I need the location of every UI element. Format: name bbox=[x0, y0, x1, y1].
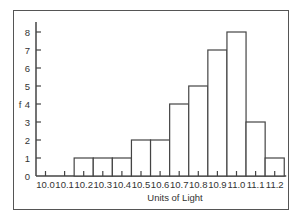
histogram-chart: 012345678f10.010.110.210.310.410.510.610… bbox=[0, 0, 302, 219]
y-tick-label: 0 bbox=[25, 171, 30, 182]
x-axis-label: Units of Light bbox=[147, 192, 203, 203]
x-tick-label: 10.0 bbox=[36, 179, 55, 190]
y-tick-label: 5 bbox=[25, 81, 30, 92]
y-tick-label: 2 bbox=[25, 135, 30, 146]
y-tick-label: 4 bbox=[25, 99, 30, 110]
x-tick-label: 10.5 bbox=[132, 179, 151, 190]
y-tick-label: 7 bbox=[25, 45, 30, 56]
x-tick-label: 10.1 bbox=[55, 179, 74, 190]
x-tick-label: 11.2 bbox=[266, 179, 284, 190]
x-tick-label: 11.1 bbox=[247, 179, 265, 190]
histogram-bar bbox=[227, 32, 246, 176]
histogram-bar bbox=[189, 86, 208, 176]
x-tick-label: 10.4 bbox=[113, 179, 132, 190]
x-tick-label: 10.7 bbox=[170, 179, 189, 190]
y-tick-label: 6 bbox=[25, 63, 30, 74]
y-tick-label: 1 bbox=[25, 153, 30, 164]
x-tick-label: 10.3 bbox=[94, 179, 113, 190]
x-tick-label: 10.6 bbox=[151, 179, 170, 190]
x-tick-label: 10.9 bbox=[208, 179, 227, 190]
x-tick-label: 10.8 bbox=[189, 179, 208, 190]
histogram-bar bbox=[151, 140, 170, 176]
y-tick-label: 3 bbox=[25, 117, 30, 128]
y-tick-label: 8 bbox=[25, 27, 30, 38]
histogram-bar bbox=[131, 140, 150, 176]
y-axis-label: f bbox=[19, 99, 22, 110]
histogram-bar bbox=[246, 122, 265, 176]
x-tick-label: 10.2 bbox=[74, 179, 93, 190]
x-tick-label: 11.0 bbox=[228, 179, 246, 190]
histogram-bar bbox=[170, 104, 189, 176]
histogram-bar bbox=[208, 50, 227, 176]
